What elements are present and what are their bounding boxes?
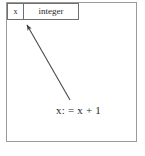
variable-declaration-box[interactable]: x integer <box>7 3 79 20</box>
variable-name-cell: x <box>8 4 24 19</box>
assignment-statement: x: = x + 1 <box>56 104 101 116</box>
diagram-root: x integer x: = x + 1 <box>0 0 145 156</box>
variable-type-cell: integer <box>24 4 78 19</box>
arrow-up-left-icon <box>0 0 145 156</box>
